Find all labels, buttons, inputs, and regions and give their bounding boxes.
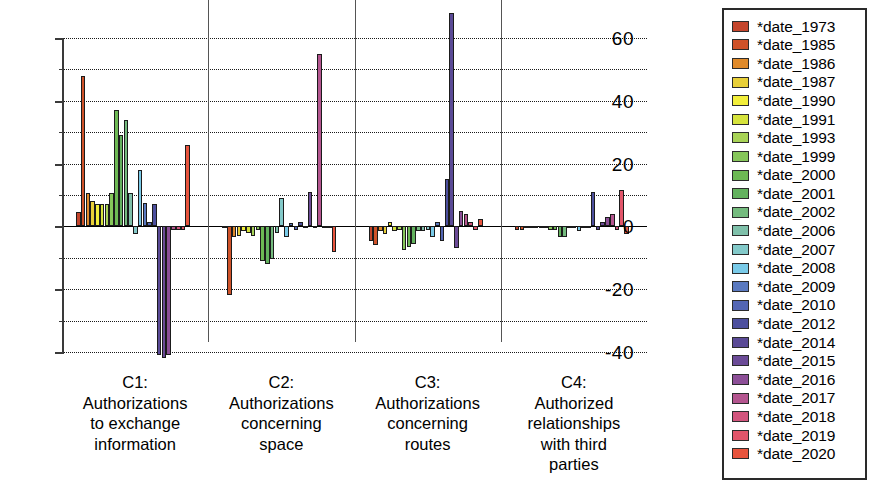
x-axis-label-line: Authorizations	[355, 393, 501, 414]
legend-color-swatch	[732, 114, 749, 125]
x-axis-label-line: concerning	[355, 413, 501, 434]
legend-item: *date_1987	[732, 73, 865, 92]
bar	[185, 145, 190, 227]
legend-item-label: *date_2006	[757, 223, 835, 239]
legend-color-swatch	[732, 300, 749, 311]
x-axis-label-c4: C4:Authorizedrelationshipswith thirdpart…	[501, 372, 647, 475]
bar	[454, 226, 459, 248]
legend-item-label: *date_2012	[757, 316, 835, 332]
legend-item: *date_2009	[732, 277, 865, 296]
bar	[275, 226, 280, 232]
bar	[303, 226, 308, 228]
bar	[383, 226, 388, 234]
legend-color-swatch	[732, 58, 749, 69]
x-axis-label-line: relationships	[501, 413, 647, 434]
legend-item-label: *date_2016	[757, 372, 835, 388]
x-axis-label-c1: C1:Authorizationsto exchangeinformation	[62, 372, 208, 454]
legend-item-label: *date_2018	[757, 409, 835, 425]
x-axis-label-line: C2:	[208, 372, 354, 393]
legend-item-label: *date_2000	[757, 167, 835, 183]
y-axis-tick	[55, 289, 64, 291]
legend-item: *date_2006	[732, 222, 865, 241]
legend-item-label: *date_2020	[757, 446, 835, 462]
y-axis-label: 20	[572, 154, 634, 173]
legend-item-label: *date_2019	[757, 428, 835, 444]
y-axis-label: 40	[572, 91, 634, 110]
legend-item: *date_1986	[732, 54, 865, 73]
legend-item-label: *date_2002	[757, 204, 835, 220]
group-separator	[355, 0, 356, 342]
y-axis-tick	[55, 226, 64, 228]
x-axis-label-line: routes	[355, 434, 501, 455]
y-axis-minor-tick	[59, 258, 64, 259]
legend-item-label: *date_1993	[757, 130, 835, 146]
bar-group	[355, 38, 501, 352]
legend-color-swatch	[732, 448, 749, 459]
legend-color-swatch	[732, 77, 749, 88]
x-axis-label-line: concerning	[208, 413, 354, 434]
y-axis-minor-tick	[59, 132, 64, 133]
legend-item: *date_1991	[732, 110, 865, 129]
y-axis-minor-tick	[59, 195, 64, 196]
legend-item-label: *date_1986	[757, 56, 835, 72]
bar	[181, 226, 186, 229]
x-axis-label-line: Authorizations	[62, 393, 208, 414]
y-axis-label: 0	[572, 217, 634, 236]
legend-item-label: *date_2015	[757, 353, 835, 369]
legend-item: *date_2018	[732, 407, 865, 426]
legend-item: *date_2007	[732, 240, 865, 259]
legend-item: *date_2008	[732, 259, 865, 278]
x-axis-label-line: C3:	[355, 372, 501, 393]
legend-item: *date_1999	[732, 147, 865, 166]
x-axis-label-c3: C3:Authorizationsconcerningroutes	[355, 372, 501, 454]
legend-item: *date_1985	[732, 36, 865, 55]
bar	[440, 226, 445, 240]
legend-item: *date_1990	[732, 91, 865, 110]
group-separator	[208, 0, 209, 342]
legend-color-swatch	[732, 337, 749, 348]
legend-color-swatch	[732, 263, 749, 274]
y-axis	[62, 38, 64, 352]
y-axis-label: -40	[572, 343, 634, 362]
legend-item: *date_2015	[732, 352, 865, 371]
legend-item: *date_2019	[732, 426, 865, 445]
y-axis-label: -20	[572, 280, 634, 299]
legend-color-swatch	[732, 207, 749, 218]
bar	[430, 226, 435, 237]
legend-item: *date_2017	[732, 389, 865, 408]
x-axis-label-line: Authorizations	[208, 393, 354, 414]
legend-color-swatch	[732, 132, 749, 143]
chart-legend: *date_1973*date_1985*date_1986*date_1987…	[722, 8, 867, 480]
legend-item-label: *date_1999	[757, 149, 835, 165]
y-axis-minor-tick	[59, 321, 64, 322]
legend-item-label: *date_2008	[757, 260, 835, 276]
legend-item-label: *date_1991	[757, 112, 835, 128]
legend-color-swatch	[732, 151, 749, 162]
legend-color-swatch	[732, 244, 749, 255]
legend-color-swatch	[732, 225, 749, 236]
legend-item-label: *date_1973	[757, 19, 835, 35]
legend-color-swatch	[732, 188, 749, 199]
legend-item: *date_2016	[732, 370, 865, 389]
y-axis-tick	[55, 38, 64, 40]
x-axis-label-line: Authorized	[501, 393, 647, 414]
bar	[128, 193, 133, 226]
legend-item: *date_2014	[732, 333, 865, 352]
x-axis-label-line: space	[208, 434, 354, 455]
y-axis-label: 60	[572, 29, 634, 48]
x-axis-label-line: C4:	[501, 372, 647, 393]
legend-item-label: *date_1990	[757, 93, 835, 109]
legend-item: *date_2002	[732, 203, 865, 222]
y-axis-tick	[55, 352, 64, 354]
bar	[449, 13, 454, 227]
bar-group	[501, 38, 647, 352]
legend-color-swatch	[732, 374, 749, 385]
legend-item-label: *date_2001	[757, 186, 835, 202]
plot-area	[62, 38, 647, 352]
legend-color-swatch	[732, 355, 749, 366]
x-axis-label-line: information	[62, 434, 208, 455]
bar	[279, 198, 284, 226]
bar	[152, 204, 157, 226]
group-separator	[501, 0, 502, 342]
legend-item: *date_1973	[732, 17, 865, 36]
